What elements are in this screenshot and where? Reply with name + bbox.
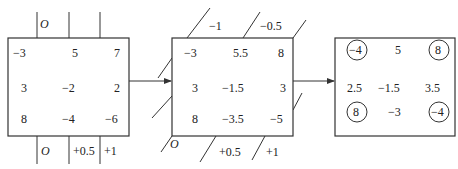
- box1: O O +0.5 +1 −3 5 7 3 −2 2 8 −4 −6: [8, 12, 129, 164]
- box1-bottom-label-2: +1: [104, 144, 117, 158]
- cell: 3: [280, 81, 286, 95]
- cell: −3: [388, 105, 401, 119]
- cell: −4: [349, 43, 362, 57]
- box2: −1 −0.5 O +0.5 +1 −3 5.5 8 3 −1.5 3 8 −3…: [152, 8, 306, 162]
- cell: 8: [278, 46, 284, 60]
- cell: 3.5: [425, 81, 440, 95]
- box2-top-label-0: −1: [209, 19, 222, 33]
- cell: −5: [270, 112, 283, 126]
- cell: −3.5: [222, 112, 244, 126]
- flatness-correction-diagram: O O +0.5 +1 −3 5 7 3 −2 2 8 −4 −6 −1 −0.…: [0, 0, 458, 169]
- cell: −2: [62, 81, 75, 95]
- cell: 2.5: [347, 81, 362, 95]
- cell: 8: [21, 112, 27, 126]
- cell: −4: [431, 105, 444, 119]
- cell: 2: [114, 81, 120, 95]
- box1-bottom-label-1: +0.5: [73, 144, 95, 158]
- box2-bottom-label-1: +0.5: [219, 145, 241, 159]
- cell: −6: [105, 112, 118, 126]
- cell: −1.5: [222, 81, 244, 95]
- cell: 3: [192, 81, 198, 95]
- cell: −1.5: [378, 81, 400, 95]
- cell: 5: [72, 46, 78, 60]
- cell: 8: [353, 105, 359, 119]
- cell: 8: [192, 112, 198, 126]
- cell: −3: [184, 46, 197, 60]
- cell: 3: [21, 81, 27, 95]
- cell: 5.5: [233, 46, 248, 60]
- cell: 8: [435, 43, 441, 57]
- box1-top-label-0: O: [40, 17, 49, 31]
- cell: 5: [395, 43, 401, 57]
- box2-bottom-label-2: +1: [266, 145, 279, 159]
- box3: −4 5 8 2.5 −1.5 3.5 8 −3 −4: [335, 38, 455, 136]
- cell: −3: [13, 46, 26, 60]
- cell: −4: [62, 112, 75, 126]
- box2-top-label-1: −0.5: [260, 19, 282, 33]
- cell: 7: [114, 46, 120, 60]
- box2-bottom-label-0: O: [170, 137, 179, 151]
- box1-bottom-label-0: O: [41, 144, 50, 158]
